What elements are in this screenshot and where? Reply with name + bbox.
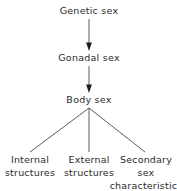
leaf-secondary-sex-characteristics-line-3: characteristics: [110, 180, 177, 191]
leaf-secondary-sex-characteristics-line-1: Secondary: [110, 154, 177, 167]
node-body-sex: Body sex: [66, 94, 111, 107]
leaf-external-structures: External structures: [64, 154, 114, 180]
arrowhead-gonadal-to-body: [86, 85, 92, 94]
flowchart-diagram: Genetic sex Gonadal sex Body sex Interna…: [0, 0, 177, 191]
leaf-internal-structures: Internal structures: [5, 154, 55, 180]
edge-body-to-secondary: [89, 108, 145, 152]
leaf-internal-structures-line-1: Internal: [5, 154, 55, 167]
leaf-internal-structures-line-2: structures: [5, 167, 55, 180]
edge-body-to-internal: [30, 108, 89, 152]
arrowhead-genetic-to-gonadal: [86, 43, 92, 52]
leaf-secondary-sex-characteristics-line-2: sex: [110, 167, 177, 180]
leaf-secondary-sex-characteristics: Secondary sex characteristics: [110, 154, 177, 191]
node-genetic-sex: Genetic sex: [60, 5, 119, 18]
leaf-external-structures-line-2: structures: [64, 167, 114, 180]
leaf-external-structures-line-1: External: [64, 154, 114, 167]
node-gonadal-sex: Gonadal sex: [58, 52, 120, 65]
